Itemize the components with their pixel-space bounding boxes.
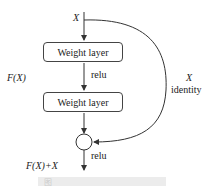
relu-label-1: relu (91, 69, 107, 81)
weight-layer-1: Weight layer (43, 42, 123, 62)
weight-layer-2: Weight layer (43, 92, 123, 112)
input-label: X (73, 12, 79, 24)
residual-label: F(X) (7, 72, 26, 84)
identity-label: identity (171, 84, 202, 96)
shortcut-label: X (186, 72, 192, 84)
relu-label-2: relu (91, 150, 107, 162)
output-label: F(X)+X (26, 160, 58, 172)
caption: 图 (44, 176, 52, 186)
caption-bar (38, 177, 166, 186)
